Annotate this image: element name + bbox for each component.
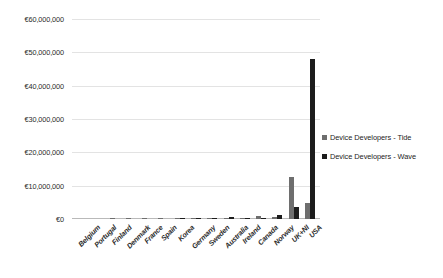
bar-group [204,19,220,219]
y-axis-tick-label: €50,000,000 [25,48,64,57]
bar-group [285,19,301,219]
x-axis-category: France [139,221,155,278]
legend-label: Device Developers - Tide [330,133,411,142]
bar-group [155,19,171,219]
bar-group [220,19,236,219]
x-axis-category: Spain [155,221,171,278]
x-axis-labels: BelgiumPortugalFinlandDenmarkFranceSpain… [72,221,320,278]
x-axis-category: Belgium [74,221,90,278]
bar-wave[interactable] [294,207,299,219]
bar-wave[interactable] [245,218,250,220]
y-axis-tick-label: €40,000,000 [25,81,64,90]
bar-group [172,19,188,219]
bar-tide[interactable] [126,218,131,219]
x-axis-category: Ireland [237,221,253,278]
bar-wave[interactable] [310,59,315,219]
bar-tide[interactable] [110,218,115,219]
y-axis-tick-label: €10,000,000 [25,181,64,190]
bar-tide[interactable] [158,218,163,219]
legend-item[interactable]: Device Developers - Wave [322,152,440,161]
bar-series-container [72,19,320,219]
y-axis-labels: €0€10,000,000€20,000,000€30,000,000€40,0… [0,0,70,238]
y-axis-tick-label: €20,000,000 [25,148,64,157]
y-axis-tick-label: €60,000,000 [25,15,64,24]
legend-swatch-tide-icon [322,135,327,140]
bar-chart: €0€10,000,000€20,000,000€30,000,000€40,0… [0,0,443,278]
bar-tide[interactable] [142,218,147,219]
x-axis-category: Korea [172,221,188,278]
x-axis-category: Sweden [204,221,220,278]
bar-group [107,19,123,219]
x-axis-category: Canada [253,221,269,278]
bar-wave[interactable] [261,218,266,219]
legend-item[interactable]: Device Developers - Tide [322,133,440,142]
bar-group [237,19,253,219]
bar-group [123,19,139,219]
x-axis-category: UK+NI [285,221,301,278]
x-axis-category: Denmark [123,221,139,278]
bar-group [253,19,269,219]
bar-wave[interactable] [212,218,217,219]
bar-group [139,19,155,219]
legend-swatch-wave-icon [322,154,327,159]
x-axis-category: Norway [269,221,285,278]
y-axis-tick-label: €30,000,000 [25,115,64,124]
legend-label: Device Developers - Wave [330,152,416,161]
chart-legend: Device Developers - TideDevice Developer… [322,133,440,171]
bar-group [74,19,90,219]
bar-group [302,19,318,219]
bar-wave[interactable] [229,217,234,219]
x-axis-category: USA [302,221,318,278]
bar-group [269,19,285,219]
plot-area [72,19,320,219]
x-axis-category: Australia [220,221,236,278]
x-axis-category: Germany [188,221,204,278]
bar-wave[interactable] [196,218,201,219]
x-axis-category: Finland [107,221,123,278]
x-axis-category: Portugal [90,221,106,278]
y-axis-tick-label: €0 [56,215,64,224]
bar-group [90,19,106,219]
x-axis-tick-label: USA [307,223,324,240]
bar-group [188,19,204,219]
bar-wave[interactable] [277,215,282,219]
bar-wave[interactable] [180,218,185,219]
